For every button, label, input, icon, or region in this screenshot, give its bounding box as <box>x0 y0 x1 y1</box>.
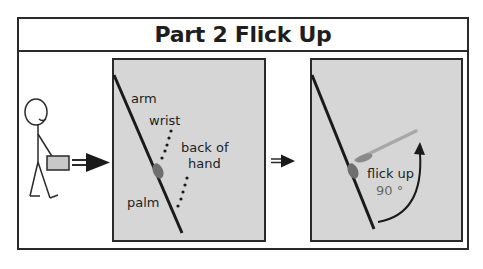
panel-wrist-anatomy: arm wrist back of hand palm <box>113 59 265 241</box>
box-icon <box>47 156 69 170</box>
double-arrow-icon <box>72 153 110 172</box>
panel-flick-up: flick up 90 ° <box>311 59 462 241</box>
label-palm: palm <box>127 195 160 210</box>
label-back-of-hand-2: hand <box>188 156 221 171</box>
label-wrist: wrist <box>149 113 180 128</box>
stick-figure-icon <box>25 99 58 198</box>
label-flick-up: flick up <box>367 166 414 181</box>
label-angle: 90 ° <box>376 183 403 198</box>
small-double-arrow-icon <box>271 155 295 168</box>
label-arm: arm <box>131 91 157 106</box>
label-back-of-hand-1: back of <box>181 140 229 155</box>
diagram-canvas: arm wrist back of hand palm flick up 90 … <box>0 0 483 269</box>
